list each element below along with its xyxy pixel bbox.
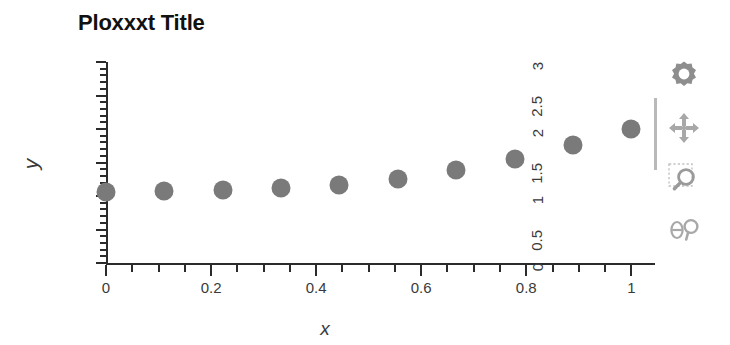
y-minor-tick (100, 88, 106, 90)
y-tick-label: 0.5 (529, 230, 546, 251)
data-point (271, 178, 290, 197)
y-major-tick (96, 61, 106, 63)
y-minor-tick (100, 148, 106, 150)
data-point (213, 180, 232, 199)
data-point (330, 175, 349, 194)
y-minor-tick (100, 235, 106, 237)
y-minor-tick (100, 208, 106, 210)
x-minor-tick (446, 265, 448, 272)
y-minor-tick (100, 168, 106, 170)
pan-move-icon[interactable] (662, 106, 706, 150)
x-major-tick (525, 265, 527, 276)
y-tick-label: 1 (529, 196, 546, 204)
x-tick-label: 1 (627, 279, 635, 296)
data-point (564, 136, 583, 155)
x-major-tick (210, 265, 212, 276)
y-minor-tick (100, 135, 106, 137)
plot-area[interactable]: 00.511.522.53 00.20.40.60.81 (106, 62, 655, 265)
y-minor-tick (100, 121, 106, 123)
y-tick-label: 1.5 (529, 163, 546, 184)
y-minor-tick (100, 81, 106, 83)
x-minor-tick (368, 265, 370, 272)
y-major-tick (96, 95, 106, 97)
x-minor-tick (289, 265, 291, 272)
data-point (622, 120, 641, 139)
y-minor-tick (100, 215, 106, 217)
data-point (155, 182, 174, 201)
y-minor-tick (100, 255, 106, 257)
x-tick-label: 0.2 (201, 279, 222, 296)
y-minor-tick (100, 202, 106, 204)
zoom-box-icon[interactable] (662, 156, 706, 200)
x-minor-tick (552, 265, 554, 272)
y-tick-label: 3 (529, 62, 546, 70)
settings-gear-icon[interactable] (662, 52, 706, 96)
x-minor-tick (394, 265, 396, 272)
x-minor-tick (578, 265, 580, 272)
x-minor-tick (604, 265, 606, 272)
y-axis-spine (106, 62, 108, 265)
x-major-tick (105, 265, 107, 276)
y-tick-label: 2 (529, 129, 546, 137)
toolbar-divider (654, 98, 657, 170)
y-tick-label: 2.5 (529, 96, 546, 117)
theta-probe-icon[interactable] (662, 208, 706, 252)
x-tick-label: 0.4 (306, 279, 327, 296)
plot-window: Ploxxxt Title y x 00.511.522.53 00.20.40… (0, 0, 730, 345)
x-tick-label: 0.8 (516, 279, 537, 296)
chart-title: Ploxxxt Title (78, 10, 205, 36)
x-axis-label: x (0, 318, 730, 340)
x-minor-tick (473, 265, 475, 272)
y-minor-tick (100, 249, 106, 251)
y-major-tick (96, 128, 106, 130)
data-point (389, 169, 408, 188)
y-minor-tick (100, 101, 106, 103)
x-minor-tick (263, 265, 265, 272)
y-minor-tick (100, 155, 106, 157)
y-minor-tick (100, 74, 106, 76)
x-major-tick (420, 265, 422, 276)
plot-toolbar (662, 52, 714, 267)
y-minor-tick (100, 141, 106, 143)
x-axis-spine (106, 263, 655, 265)
x-minor-tick (158, 265, 160, 272)
x-minor-tick (236, 265, 238, 272)
y-minor-tick (100, 108, 106, 110)
y-axis-label: y (19, 159, 43, 170)
y-minor-tick (100, 115, 106, 117)
x-major-tick (630, 265, 632, 276)
x-tick-label: 0.6 (411, 279, 432, 296)
y-minor-tick (100, 68, 106, 70)
x-minor-tick (341, 265, 343, 272)
y-minor-tick (100, 242, 106, 244)
y-tick-label: 0 (529, 263, 546, 271)
data-point (505, 150, 524, 169)
x-tick-label: 0 (102, 279, 110, 296)
data-point (447, 160, 466, 179)
y-minor-tick (100, 222, 106, 224)
y-major-tick (96, 229, 106, 231)
x-minor-tick (131, 265, 133, 272)
y-major-tick (96, 162, 106, 164)
x-minor-tick (499, 265, 501, 272)
y-minor-tick (100, 175, 106, 177)
x-minor-tick (184, 265, 186, 272)
data-point (97, 182, 116, 201)
y-major-tick (96, 262, 106, 264)
x-major-tick (315, 265, 317, 276)
